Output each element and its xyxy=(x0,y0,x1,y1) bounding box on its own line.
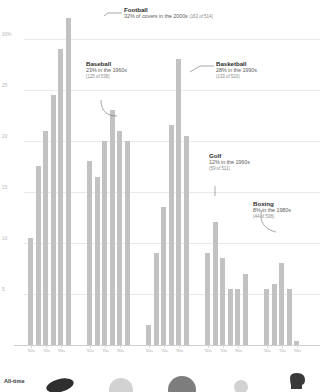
leader-football xyxy=(104,13,122,16)
leader-basketball xyxy=(190,66,214,72)
leader-boxing xyxy=(261,210,276,232)
golf-icon xyxy=(232,378,252,392)
boxing-glove-icon xyxy=(286,372,310,392)
sports-illustrated-covers-chart: 30%252015105'50s'70s'90s'50s'70s'90s'50s… xyxy=(0,0,324,392)
leader-baseball xyxy=(101,100,117,116)
basketball-icon xyxy=(168,374,198,392)
leader-lines xyxy=(0,0,324,392)
footer-icon-strip: All-time xyxy=(0,368,324,392)
footer-label: All-time xyxy=(4,378,25,384)
baseball-icon xyxy=(108,376,134,392)
football-icon xyxy=(44,376,76,392)
